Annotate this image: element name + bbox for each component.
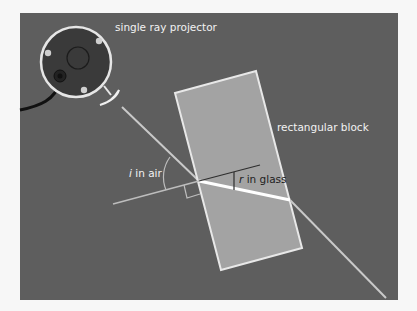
angle-r-text: in glass	[243, 173, 286, 185]
projector-body	[41, 27, 111, 97]
projector-socket-hole	[58, 74, 63, 79]
angle-i-text: in air	[132, 167, 163, 179]
refraction-diagram: single ray projector rectangular block i…	[0, 0, 417, 311]
screw-icon	[81, 87, 87, 93]
angle-i-label: i in air	[129, 167, 163, 179]
screw-icon	[96, 38, 102, 44]
angle-r-label: r in glass	[239, 173, 287, 185]
projector-label: single ray projector	[115, 21, 218, 33]
screw-icon	[45, 50, 51, 56]
block-label: rectangular block	[277, 121, 370, 133]
